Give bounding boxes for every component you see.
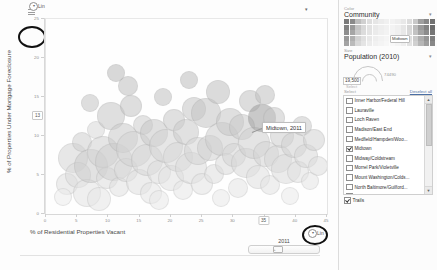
community-list-scrollbar[interactable]: ▲ ▼ [424,96,432,194]
community-checkbox[interactable] [346,136,353,143]
list-item[interactable]: Northwood [344,192,425,195]
list-item[interactable]: Midtown [344,144,425,154]
color-legend-swatch[interactable] [390,19,395,24]
color-legend-swatch[interactable] [350,41,355,46]
annotation-midtown-2011[interactable]: Midtown, 2011 [262,122,306,133]
color-legend-swatch[interactable] [350,30,355,35]
color-legend-swatch[interactable] [407,19,412,24]
color-legend-swatch[interactable] [350,19,355,24]
community-checkbox[interactable] [346,117,353,124]
color-legend-swatch[interactable] [344,36,349,41]
list-item[interactable]: Mount Washington/Colds... [344,173,425,183]
list-item[interactable]: Lauraville [344,106,425,116]
list-item[interactable]: Medfield/Hampden/Woo... [344,134,425,144]
color-legend-swatch[interactable] [350,25,355,30]
list-item[interactable]: North Baltimore/Guilford... [344,182,425,192]
scrollbar-thumb[interactable] [426,104,432,146]
community-checkbox[interactable] [346,174,353,181]
community-checkbox[interactable] [346,126,353,133]
color-legend-swatch[interactable] [350,36,355,41]
color-legend-swatch[interactable] [373,30,378,35]
list-item[interactable]: Inner Harbor/Federal Hill [344,96,425,106]
trails-toggle[interactable]: Trails [343,197,433,204]
community-checkbox[interactable] [346,155,353,162]
color-legend-swatch[interactable] [430,41,435,46]
color-legend-swatch[interactable] [361,30,366,35]
color-legend-swatch[interactable] [361,19,366,24]
color-legend-swatch[interactable] [384,25,389,30]
community-list[interactable]: Inner Harbor/Federal HillLauravilleLoch … [344,96,425,194]
community-checkbox[interactable] [346,107,353,114]
community-checkbox[interactable] [346,165,353,172]
color-legend-swatch[interactable] [418,25,423,30]
color-legend-swatch[interactable] [344,19,349,24]
community-checkbox[interactable] [346,98,353,105]
color-legend-swatch[interactable] [344,30,349,35]
color-legend-swatch[interactable] [367,41,372,46]
color-legend[interactable]: Midtown [343,19,433,46]
color-legend-swatch[interactable] [367,25,372,30]
color-legend-swatch[interactable] [413,30,418,35]
color-legend-swatch[interactable] [424,25,429,30]
color-legend-swatch[interactable] [373,25,378,30]
color-legend-swatch[interactable] [355,41,360,46]
color-legend-swatch[interactable] [373,36,378,41]
color-legend-swatch[interactable] [401,19,406,24]
color-legend-swatch[interactable] [390,25,395,30]
color-legend-swatch[interactable] [395,25,400,30]
color-legend-swatch[interactable] [395,19,400,24]
community-checkbox[interactable] [346,193,353,195]
color-legend-swatch[interactable] [378,25,383,30]
color-legend-swatch[interactable] [378,41,383,46]
color-legend-swatch[interactable] [384,36,389,41]
list-item[interactable]: Morrel Park/Violetville [344,163,425,173]
color-legend-swatch[interactable] [418,19,423,24]
color-legend-swatch[interactable] [367,36,372,41]
color-legend-swatch[interactable] [344,41,349,46]
scroll-up-icon[interactable]: ▲ [425,96,432,104]
color-legend-swatch[interactable] [407,25,412,30]
color-legend-swatch[interactable] [384,30,389,35]
list-item[interactable]: Loch Raven [344,115,425,125]
scroll-down-icon[interactable]: ▼ [425,186,432,194]
color-legend-swatch[interactable] [413,25,418,30]
color-legend-swatch[interactable] [384,41,389,46]
color-legend-swatch[interactable] [430,36,435,41]
color-legend-swatch[interactable] [367,30,372,35]
deselect-all-link[interactable]: Deselect all [410,89,432,94]
color-legend-swatch[interactable] [361,25,366,30]
color-legend-swatch[interactable] [413,36,418,41]
chevron-down-icon[interactable]: ▾ [429,12,432,17]
color-legend-swatch[interactable] [413,19,418,24]
size-legend[interactable]: 19,500 74490 Select [343,62,433,88]
color-legend-swatch[interactable] [424,19,429,24]
color-legend-swatch[interactable] [361,36,366,41]
color-legend-swatch[interactable] [355,25,360,30]
list-item[interactable]: Madison/East End [344,125,425,135]
trails-checkbox[interactable] [344,197,351,204]
color-legend-swatch[interactable] [424,41,429,46]
color-legend-swatch[interactable] [418,41,423,46]
color-legend-swatch[interactable] [361,41,366,46]
color-legend-swatch[interactable] [378,36,383,41]
color-legend-swatch[interactable] [373,41,378,46]
size-field-select[interactable]: Population (2010) ▾ [343,53,433,60]
chevron-down-icon-size[interactable]: ▾ [429,54,432,59]
color-legend-swatch[interactable] [424,36,429,41]
color-legend-swatch[interactable] [344,25,349,30]
color-legend-swatch[interactable] [355,36,360,41]
color-legend-swatch[interactable] [424,30,429,35]
color-legend-swatch[interactable] [367,19,372,24]
color-legend-swatch[interactable] [430,19,435,24]
color-legend-swatch[interactable] [355,19,360,24]
year-slider-thumb[interactable]: ◦ [273,246,283,253]
year-slider-track[interactable]: ◦ [248,245,320,254]
color-legend-swatch[interactable] [430,25,435,30]
color-legend-swatch[interactable] [373,19,378,24]
color-legend-swatch[interactable] [355,30,360,35]
color-legend-swatch[interactable] [418,36,423,41]
color-legend-swatch[interactable] [378,19,383,24]
color-legend-swatch[interactable] [378,30,383,35]
year-slider[interactable]: 2011 ◦ [248,238,320,254]
color-legend-swatch[interactable] [401,25,406,30]
